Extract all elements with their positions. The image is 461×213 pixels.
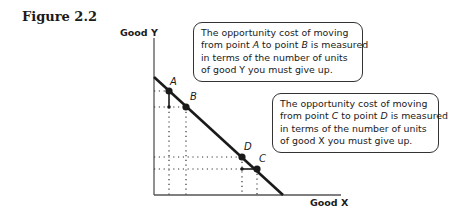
callout-ab-line4: of good Y you must give up.: [201, 64, 356, 76]
cost-segment-a-b-end: [167, 105, 171, 109]
point-b-label: B: [190, 91, 197, 102]
point-d-marker: [238, 153, 245, 160]
cost-segment-c-d-end: [240, 167, 244, 171]
callout-cd-line3: in terms of the number of units: [280, 123, 432, 135]
point-a-marker: [165, 87, 172, 94]
point-c-label: C: [259, 153, 266, 164]
callout-ab-line2: from point A to point B is measured: [201, 39, 356, 51]
callout-c-to-d: The opportunity cost of moving from poin…: [272, 93, 439, 153]
ppf-line: [154, 77, 283, 195]
point-b-marker: [182, 103, 189, 110]
callout-cd-line1: The opportunity cost of moving: [280, 98, 432, 110]
callout-ab-line3: in terms of the number of units: [201, 52, 356, 64]
callout-a-to-b: The opportunity cost of moving from poin…: [193, 22, 363, 82]
callout-cd-line4: of good X you must give up.: [280, 135, 432, 147]
callout-ab-line1: The opportunity cost of moving: [201, 27, 356, 39]
callout-cd-line2: from point C to point D is measured: [280, 110, 432, 122]
point-d-label: D: [244, 141, 252, 152]
point-a-label: A: [170, 76, 177, 87]
point-c-marker: [253, 165, 260, 172]
